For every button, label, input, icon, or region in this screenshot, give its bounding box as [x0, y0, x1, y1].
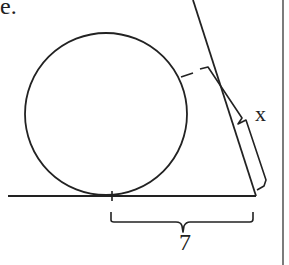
slanted-tangent-line [193, 0, 256, 196]
label-x: x [255, 103, 266, 125]
brace-x [200, 67, 266, 190]
diagram-canvas [0, 0, 289, 265]
geometry-diagram: e. x 7 [0, 0, 289, 265]
label-7: 7 [179, 230, 191, 254]
cropped-text-fragment: e. [0, 0, 17, 18]
circle [25, 33, 187, 195]
tangent-point-slant [181, 73, 193, 77]
